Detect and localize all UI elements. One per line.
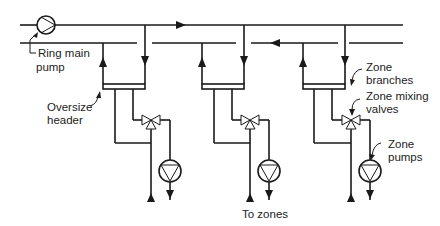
zone-pump-icon	[359, 160, 381, 182]
label-oversize-header-2: header	[47, 114, 83, 126]
zone-2-circuit	[198, 25, 280, 202]
label-zone-mixing-valves-2: valves	[366, 103, 399, 115]
ring-main-diagram: Ring main pump Oversize header Zone bran…	[0, 0, 440, 226]
zone-pump-icon	[159, 160, 181, 182]
label-ring-main-pump-2: pump	[36, 61, 65, 73]
label-oversize-header: Oversize	[47, 101, 92, 113]
label-zone-mixing-valves: Zone mixing	[366, 90, 429, 102]
label-zone-pumps: Zone	[388, 138, 414, 150]
mixing-valve-icon	[241, 115, 259, 129]
label-zone-pumps-2: pumps	[388, 151, 423, 163]
label-zone-branches-2: branches	[366, 74, 414, 86]
mixing-valve-icon	[142, 115, 160, 129]
flow-arrow-icon	[176, 21, 186, 29]
label-to-zones: To zones	[242, 208, 288, 220]
label-zone-branches: Zone	[366, 61, 392, 73]
ring-main-pump	[37, 16, 55, 34]
zone-pump-icon	[258, 160, 280, 182]
return-arrow-icon	[270, 39, 280, 47]
oversize-header	[103, 84, 145, 89]
zone-1-circuit	[99, 25, 181, 202]
label-ring-main-pump: Ring main	[38, 47, 90, 59]
mixing-valve-icon	[342, 115, 360, 129]
